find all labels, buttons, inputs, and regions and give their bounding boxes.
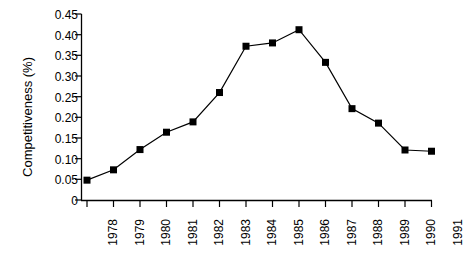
x-tick-label: 1988 — [372, 219, 384, 259]
x-tick-label: 1991 — [452, 219, 464, 259]
x-tick-label: 1986 — [319, 219, 331, 259]
x-tick-label: 1978 — [107, 219, 119, 259]
x-tick-label: 1979 — [134, 219, 146, 259]
x-tick-label: 1980 — [160, 219, 172, 259]
x-tick-label: 1989 — [399, 219, 411, 259]
x-tick-label: 1984 — [266, 219, 278, 259]
x-tick-label: 1985 — [293, 219, 305, 259]
x-tick-label: 1987 — [346, 219, 358, 259]
x-tick-label: 1983 — [240, 219, 252, 259]
x-tick-label: 1981 — [187, 219, 199, 259]
x-tick-label: 1982 — [213, 219, 225, 259]
x-tick-label: 1990 — [425, 219, 437, 259]
